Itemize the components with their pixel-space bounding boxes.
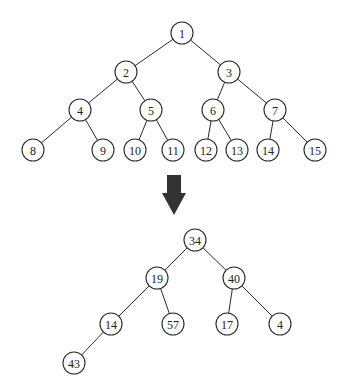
tree-node: 13 bbox=[226, 139, 248, 161]
node-label: 14 bbox=[105, 318, 117, 332]
node-label: 4 bbox=[77, 104, 83, 118]
tree-node: 17 bbox=[216, 313, 238, 335]
tree-node: 11 bbox=[162, 139, 184, 161]
tree-node: 43 bbox=[63, 352, 85, 374]
tree-node: 6 bbox=[202, 99, 224, 121]
node-label: 19 bbox=[151, 272, 163, 286]
node-label: 3 bbox=[226, 66, 232, 80]
node-label: 11 bbox=[167, 144, 179, 158]
value-tree: 341940145717443 bbox=[63, 229, 291, 374]
tree-node: 4 bbox=[269, 313, 291, 335]
tree-edge bbox=[165, 248, 187, 270]
tree-node: 9 bbox=[92, 139, 114, 161]
node-label: 17 bbox=[221, 318, 233, 332]
tree-node: 40 bbox=[223, 267, 245, 289]
tree-edge bbox=[119, 286, 149, 316]
tree-node: 5 bbox=[140, 99, 162, 121]
tree-edge bbox=[217, 82, 224, 100]
tree-edge bbox=[283, 118, 307, 142]
node-label: 15 bbox=[309, 144, 321, 158]
tree-edge bbox=[132, 81, 145, 101]
node-label: 2 bbox=[123, 66, 129, 80]
tree-node: 15 bbox=[304, 139, 326, 161]
tree-transformation-diagram: 123456789101112131415 341940145717443 bbox=[0, 0, 344, 391]
node-label: 5 bbox=[148, 104, 154, 118]
tree-edge bbox=[190, 40, 220, 65]
tree-edge bbox=[156, 120, 167, 141]
index-tree: 123456789101112131415 bbox=[22, 22, 326, 161]
tree-node: 7 bbox=[264, 99, 286, 121]
node-label: 8 bbox=[30, 144, 36, 158]
tree-edge bbox=[203, 248, 226, 271]
tree-node: 1 bbox=[171, 22, 193, 44]
index-tree-nodes: 123456789101112131415 bbox=[22, 22, 326, 161]
tree-edge bbox=[219, 119, 232, 140]
node-label: 12 bbox=[200, 144, 212, 158]
tree-node: 14 bbox=[100, 313, 122, 335]
node-label: 34 bbox=[189, 234, 201, 248]
node-label: 9 bbox=[100, 144, 106, 158]
tree-edge bbox=[270, 121, 273, 139]
tree-node: 8 bbox=[22, 139, 44, 161]
tree-edge bbox=[41, 117, 71, 143]
node-label: 10 bbox=[129, 144, 141, 158]
tree-node: 10 bbox=[124, 139, 146, 161]
tree-edge bbox=[139, 120, 147, 140]
tree-edge bbox=[229, 289, 233, 313]
node-label: 6 bbox=[210, 104, 216, 118]
tree-node: 3 bbox=[218, 61, 240, 83]
node-label: 57 bbox=[167, 318, 179, 332]
tree-edge bbox=[208, 121, 211, 139]
node-label: 13 bbox=[231, 144, 243, 158]
node-label: 14 bbox=[262, 144, 274, 158]
index-tree-edges bbox=[41, 39, 307, 143]
tree-node: 34 bbox=[184, 229, 206, 251]
tree-node: 14 bbox=[257, 139, 279, 161]
node-label: 7 bbox=[272, 104, 278, 118]
node-label: 1 bbox=[179, 27, 185, 41]
node-label: 40 bbox=[228, 272, 240, 286]
tree-node: 57 bbox=[162, 313, 184, 335]
tree-edge bbox=[237, 79, 266, 103]
tree-node: 12 bbox=[195, 139, 217, 161]
tree-node: 2 bbox=[115, 61, 137, 83]
tree-node: 4 bbox=[69, 99, 91, 121]
node-label: 4 bbox=[277, 318, 283, 332]
tree-edge bbox=[88, 79, 117, 103]
value-tree-edges bbox=[82, 248, 273, 355]
tree-edge bbox=[242, 286, 272, 316]
node-label: 43 bbox=[68, 357, 80, 371]
tree-edge bbox=[85, 120, 97, 141]
tree-node: 19 bbox=[146, 267, 168, 289]
tree-edge bbox=[161, 288, 170, 313]
tree-edge bbox=[135, 39, 173, 65]
down-arrow-icon bbox=[162, 175, 186, 215]
tree-edge bbox=[82, 332, 104, 355]
